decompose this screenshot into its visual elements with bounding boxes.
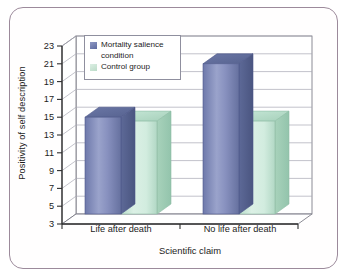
legend-item-control-group: Control group [90,62,176,73]
y-tick-label: 13 [38,130,54,140]
bar-mortality-group-2 [203,54,253,214]
bar-chart-figure: 23 21 19 17 15 13 11 9 7 5 3 Positivity … [0,0,347,278]
y-tick-label: 9 [38,166,54,176]
bar-mortality-group-1 [85,107,135,214]
y-tick-label: 7 [38,183,54,193]
y-tick-label: 21 [38,59,54,69]
green-swatch-icon [90,64,97,71]
legend-item-mortality-salience: Mortality salience condition [90,40,176,61]
y-tick-label: 17 [38,94,54,104]
blue-swatch-icon [90,42,97,49]
legend-label: Mortality salience condition [101,40,176,61]
x-tick-label-no-life-after-death: No life after death [190,224,290,234]
legend-label: Control group [101,62,150,73]
y-ticks [57,46,62,224]
y-axis-title: Positivity of self description [17,38,27,208]
y-tick-label: 23 [38,41,54,51]
y-tick-label: 15 [38,112,54,122]
y-tick-label: 11 [38,148,54,158]
y-tick-label: 5 [38,201,54,211]
y-tick-label: 19 [38,77,54,87]
x-tick-label-life-after-death: Life after death [76,224,166,234]
x-axis-title: Scientific claim [60,245,320,256]
chart-legend: Mortality salience condition Control gro… [84,35,181,80]
y-tick-label: 3 [38,219,54,229]
bar-group-1 [85,107,171,214]
